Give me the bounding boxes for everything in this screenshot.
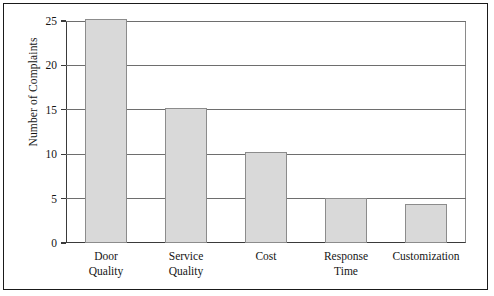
y-axis-tick-label: 15 [46, 104, 58, 116]
y-axis-tick-label: 25 [46, 15, 58, 27]
y-axis-tick [61, 154, 66, 155]
y-axis-tick-label: 5 [51, 193, 57, 205]
x-axis-category-label: Response Time [306, 249, 386, 278]
bar [405, 204, 447, 243]
x-axis-category-label: Customization [386, 249, 466, 264]
y-axis-tick [61, 65, 66, 66]
x-axis-category-label: Service Quality [146, 249, 226, 278]
chart-figure: Number of Complaints 0510152025 Door Qua… [0, 0, 494, 296]
plot-area: 0510152025 Door QualityService QualityCo… [66, 21, 466, 243]
y-axis-title: Number of Complaints [27, 12, 39, 172]
bar [325, 198, 367, 243]
y-axis-tick-label: 10 [46, 148, 58, 160]
x-axis-category-label: Door Quality [66, 249, 146, 278]
y-axis-tick [61, 198, 66, 199]
y-axis-tick-label: 20 [46, 59, 58, 71]
y-axis-tick [61, 242, 66, 243]
x-axis-category-label: Cost [226, 249, 306, 264]
y-axis-tick [61, 109, 66, 110]
y-axis-tick [61, 20, 66, 21]
bar [245, 152, 287, 243]
y-axis-tick-label: 0 [51, 237, 57, 249]
bar [85, 19, 127, 243]
bar [165, 108, 207, 243]
